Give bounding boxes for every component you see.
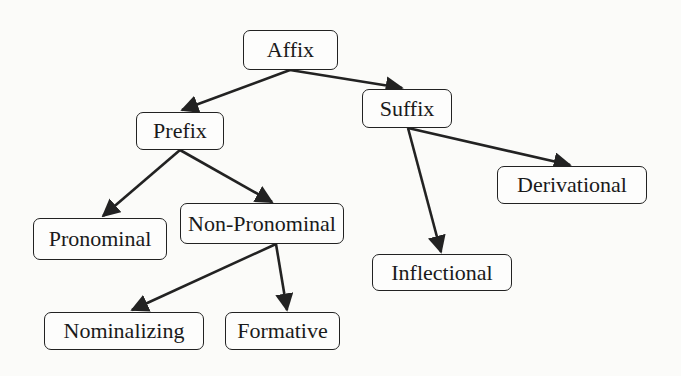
node-non-pronominal: Non-Pronominal xyxy=(180,203,344,244)
node-inflectional: Inflectional xyxy=(372,254,512,291)
node-label: Nominalizing xyxy=(64,320,185,342)
edge-prefix-pronominal xyxy=(103,150,180,216)
node-nominalizing: Nominalizing xyxy=(44,312,204,350)
node-suffix: Suffix xyxy=(362,89,452,128)
node-label: Affix xyxy=(267,39,314,61)
node-derivational: Derivational xyxy=(497,166,647,204)
edge-prefix-nonpronominal xyxy=(180,150,272,202)
edge-suffix-inflectional xyxy=(408,128,441,252)
node-affix: Affix xyxy=(243,30,338,70)
edge-affix-suffix xyxy=(290,70,402,88)
node-prefix: Prefix xyxy=(136,112,224,150)
node-label: Pronominal xyxy=(49,228,152,250)
node-label: Derivational xyxy=(517,174,627,196)
edge-nonpronominal-formative xyxy=(276,244,287,310)
node-label: Non-Pronominal xyxy=(188,213,336,235)
node-label: Prefix xyxy=(153,120,207,142)
node-label: Suffix xyxy=(380,98,435,120)
node-label: Inflectional xyxy=(391,262,492,284)
node-formative: Formative xyxy=(225,312,340,350)
edge-affix-prefix xyxy=(182,70,290,110)
node-pronominal: Pronominal xyxy=(33,218,167,260)
edge-suffix-derivational xyxy=(408,128,570,165)
node-label: Formative xyxy=(237,320,327,342)
